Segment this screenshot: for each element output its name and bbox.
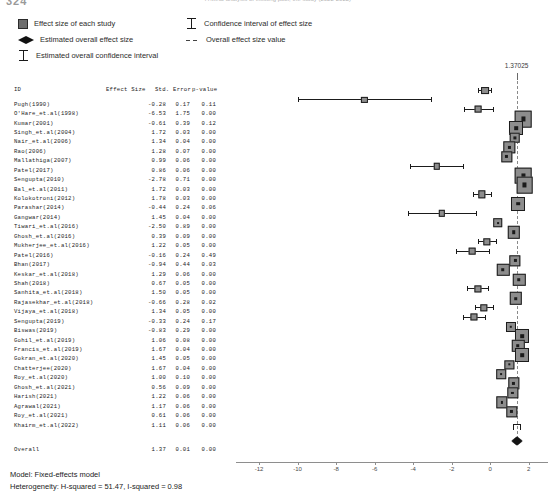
study-statistics-table: IDEffect SizeStd. Errorp-valuePugh(1990)…	[14, 86, 224, 455]
cell-effect-size: -0.33	[140, 318, 166, 325]
cell-p-value: 0.00	[196, 233, 216, 240]
cell-effect-size: -0.28	[140, 101, 166, 108]
ci-cap-upper	[431, 97, 432, 102]
table-row: Bal_et.al(2011)1.720.030.00	[14, 186, 224, 195]
table-row: Ghosh_et.al(2021)0.560.090.00	[14, 384, 224, 393]
cell-effect-size: 1.67	[140, 365, 166, 372]
study-effect-marker	[483, 238, 490, 245]
table-row: Nair_et.al(2006)1.340.040.00	[14, 138, 224, 147]
cell-p-value: 0.00	[196, 271, 216, 278]
cell-effect-size: 1.78	[140, 195, 166, 202]
cell-study-id: Biswas(2019)	[14, 327, 57, 334]
forest-row	[236, 370, 548, 379]
cell-study-id: Roy_et.al(2021)	[14, 412, 68, 419]
cell-p-value: 0.00	[196, 129, 216, 136]
error-bar-icon	[186, 18, 198, 29]
cell-p-value: 0.00	[196, 337, 216, 344]
axis-tick	[490, 462, 491, 465]
cell-study-id: Sengupta(2010)	[14, 176, 65, 183]
axis-tick-label: 2	[527, 466, 530, 472]
cell-effect-size: 1.22	[140, 242, 166, 249]
cell-effect-size: -0.94	[140, 261, 166, 268]
table-row: Chatterjee(2020)1.670.040.00	[14, 365, 224, 374]
cell-study-id: Agrawal(2021)	[14, 403, 61, 410]
ci-cap-lower	[478, 88, 479, 93]
ci-cap-lower	[298, 97, 299, 102]
study-effect-marker	[433, 163, 439, 169]
cell-study-id: Shah(2018)	[14, 280, 50, 287]
cell-study-id: Ghosh_et.al(2016)	[14, 233, 75, 240]
study-effect-marker	[471, 314, 478, 321]
cell-study-id: Rao(2006)	[14, 148, 46, 155]
forest-row-overall	[236, 432, 548, 441]
cell-p-value: 0.00	[196, 138, 216, 145]
cell-std-error: 0.04	[170, 214, 190, 221]
cell-study-id: Rajasekhar_et.al(2018)	[14, 299, 93, 306]
forest-row	[236, 341, 548, 350]
table-row: Gohil_et.al(2019)1.060.080.00	[14, 337, 224, 346]
cell-std-error: 0.24	[170, 252, 190, 259]
forest-row	[236, 303, 548, 312]
ci-cap-upper	[488, 286, 489, 291]
cell-std-error: 0.29	[170, 327, 190, 334]
table-row: Khairm_et.al(2022)1.110.060.00	[14, 422, 224, 431]
ci-cap-upper	[496, 239, 497, 244]
study-effect-marker	[480, 304, 487, 311]
study-effect-marker	[469, 248, 476, 255]
cell-std-error: 0.06	[170, 422, 190, 429]
forest-row	[236, 407, 548, 416]
cell-study-id: Chatterjee(2020)	[14, 365, 72, 372]
forest-row	[236, 124, 548, 133]
forest-plot-area: 1.37025	[236, 64, 548, 462]
cell-study-id: Pugh(1990)	[14, 101, 50, 108]
page-header-crop: 324 A Meta-analysis of existing pool, th…	[0, 0, 554, 10]
cell-effect-size: 1.22	[140, 393, 166, 400]
cell-std-error: 0.08	[170, 337, 190, 344]
cell-p-value: 0.00	[196, 186, 216, 193]
dashed-line-icon	[186, 35, 200, 45]
forest-row	[236, 351, 548, 360]
axis-tick	[375, 462, 376, 465]
ci-cap-upper	[476, 211, 477, 216]
cell-std-error: 0.05	[170, 280, 190, 287]
ci-cap-lower	[463, 315, 464, 320]
model-line: Model: Fixed-effects model	[10, 469, 410, 481]
axis-tick	[298, 462, 299, 465]
forest-row	[236, 360, 548, 369]
ci-cap-lower	[410, 164, 411, 169]
forest-row	[236, 181, 548, 190]
gray-square-icon	[18, 19, 28, 29]
cell-effect-size: -0.66	[140, 299, 166, 306]
cell-effect-size: -0.83	[140, 327, 166, 334]
cell-std-error: 0.39	[170, 120, 190, 127]
ci-cap-upper	[463, 164, 464, 169]
axis-tick-label: 0	[489, 466, 492, 472]
cell-std-error: 0.24	[170, 318, 190, 325]
ci-cap-lower	[456, 249, 457, 254]
forest-row	[236, 171, 548, 180]
study-effect-marker	[505, 360, 514, 369]
cell-study-id: Vijaya_et.al(2018)	[14, 308, 79, 315]
legend: Effect size of each study Estimated over…	[18, 16, 538, 62]
cell-effect-size: -0.44	[140, 204, 166, 211]
ci-cap-lower	[478, 239, 479, 244]
cell-effect-size: 1.29	[140, 271, 166, 278]
cell-study-id: Kumar(2001)	[14, 120, 54, 127]
cell-effect-size: 1.00	[140, 374, 166, 381]
forest-row	[236, 199, 548, 208]
table-row: Singh_et.al(2004)1.720.030.00	[14, 129, 224, 138]
forest-row	[236, 228, 548, 237]
cell-study-id: Francis_et.al(2019)	[14, 346, 83, 353]
ci-cap-upper	[489, 249, 490, 254]
forest-row	[236, 162, 548, 171]
legend-item-overall-effect: Estimated overall effect size	[18, 32, 158, 47]
cell-std-error: 0.03	[170, 129, 190, 136]
reference-line-tick	[517, 73, 518, 80]
cell-std-error: 0.05	[170, 242, 190, 249]
axis-tick-label: -4	[411, 466, 416, 472]
cell-study-id: Tiwari_et.al(2016)	[14, 223, 79, 230]
cell-p-value: 0.06	[196, 204, 216, 211]
axis-tick	[259, 462, 260, 465]
cell-p-value: 0.00	[196, 355, 216, 362]
cell-p-value: 0.00	[196, 393, 216, 400]
